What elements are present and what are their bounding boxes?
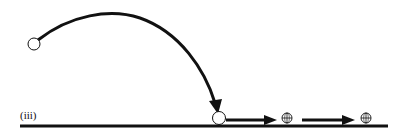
start-ball-icon: [28, 38, 40, 50]
landed-ball-icon: [213, 112, 226, 125]
right-arrow-icon: [302, 115, 355, 125]
diagram-canvas: [0, 0, 408, 136]
globe-icon: [361, 113, 371, 123]
right-arrow-icon: [226, 115, 277, 125]
trajectory-arrow: [38, 14, 215, 103]
globe-icon: [282, 113, 292, 123]
